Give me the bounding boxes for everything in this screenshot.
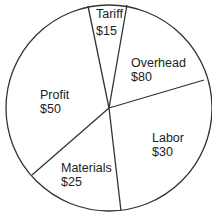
slice-label-labor: Labor xyxy=(152,131,184,145)
slice-value-materials: $25 xyxy=(61,175,82,189)
slice-value-tariff: $15 xyxy=(96,24,117,38)
slice-value-labor: $30 xyxy=(152,145,173,159)
slice-value-overhead: $80 xyxy=(131,70,152,84)
slice-label-tariff: Tariff xyxy=(96,7,123,21)
slice-label-materials: Materials xyxy=(61,161,112,175)
slice-label-profit: Profit xyxy=(40,88,70,102)
slice-value-profit: $50 xyxy=(40,102,61,116)
slice-label-overhead: Overhead xyxy=(131,56,186,70)
pie-chart: Tariff$15Overhead$80Labor$30Materials$25… xyxy=(0,0,212,219)
